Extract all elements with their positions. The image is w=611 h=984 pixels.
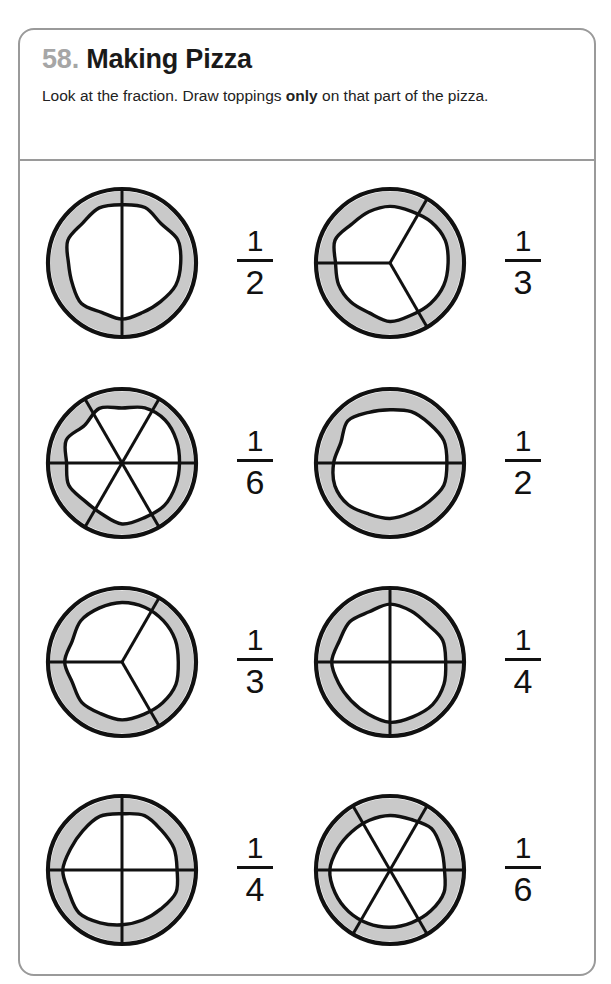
problem-6: 14 [310, 582, 546, 742]
problem-2: 13 [310, 183, 546, 343]
fraction-label-6: 14 [500, 626, 546, 698]
fraction-numerator: 1 [232, 626, 278, 654]
fraction-label-3: 16 [232, 427, 278, 499]
fraction-denominator: 2 [500, 465, 546, 499]
pizza-diagram-2[interactable] [310, 183, 470, 343]
fraction-denominator: 3 [232, 664, 278, 698]
pizza-diagram-4[interactable] [310, 383, 470, 543]
fraction-bar [505, 866, 541, 869]
fraction-denominator: 3 [500, 265, 546, 299]
problem-1: 12 [42, 183, 278, 343]
page-title: 58. Making Pizza [42, 42, 572, 76]
exercise-number: 58. [42, 44, 79, 74]
instructions-emphasis: only [286, 87, 318, 104]
problem-8: 16 [310, 790, 546, 950]
problem-4: 12 [310, 383, 546, 543]
fraction-numerator: 1 [500, 427, 546, 455]
fraction-denominator: 6 [500, 872, 546, 906]
problem-7: 14 [42, 790, 278, 950]
instructions-text: Look at the fraction. Draw toppings only… [42, 85, 512, 107]
fraction-denominator: 6 [232, 465, 278, 499]
fraction-bar [237, 658, 273, 661]
fraction-numerator: 1 [500, 227, 546, 255]
fraction-denominator: 4 [500, 664, 546, 698]
fraction-numerator: 1 [232, 427, 278, 455]
instructions-part-two: on that part of the pizza. [318, 87, 489, 104]
fraction-label-5: 13 [232, 626, 278, 698]
exercise-title: Making Pizza [86, 44, 252, 74]
fraction-bar [505, 459, 541, 462]
problem-5: 13 [42, 582, 278, 742]
pizza-diagram-1[interactable] [42, 183, 202, 343]
fraction-label-8: 16 [500, 834, 546, 906]
pizza-diagram-5[interactable] [42, 582, 202, 742]
worksheet-page: 58. Making Pizza Look at the fraction. D… [0, 0, 611, 984]
fraction-bar [505, 259, 541, 262]
problem-3: 16 [42, 383, 278, 543]
instructions-part-one: Look at the fraction. Draw toppings [42, 87, 286, 104]
fraction-bar [505, 658, 541, 661]
fraction-denominator: 2 [232, 265, 278, 299]
fraction-label-1: 12 [232, 227, 278, 299]
fraction-label-7: 14 [232, 834, 278, 906]
fraction-numerator: 1 [500, 834, 546, 862]
fraction-bar [237, 259, 273, 262]
pizza-diagram-7[interactable] [42, 790, 202, 950]
pizza-diagram-6[interactable] [310, 582, 470, 742]
fraction-numerator: 1 [232, 227, 278, 255]
fraction-label-4: 12 [500, 427, 546, 499]
fraction-denominator: 4 [232, 872, 278, 906]
fraction-numerator: 1 [500, 626, 546, 654]
problems-grid: 1213161213141416 [18, 161, 596, 976]
fraction-bar [237, 459, 273, 462]
pizza-diagram-8[interactable] [310, 790, 470, 950]
pizza-diagram-3[interactable] [42, 383, 202, 543]
worksheet-header: 58. Making Pizza Look at the fraction. D… [18, 28, 596, 161]
fraction-label-2: 13 [500, 227, 546, 299]
fraction-bar [237, 866, 273, 869]
fraction-numerator: 1 [232, 834, 278, 862]
